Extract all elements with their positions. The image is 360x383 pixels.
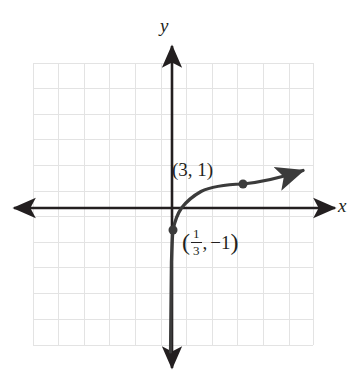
- label-close-paren: ): [230, 230, 238, 254]
- point-marker-3-1: [239, 180, 248, 189]
- fraction-denominator: 3: [191, 244, 202, 258]
- point-label-3-1: (3, 1): [172, 160, 213, 179]
- fraction-numerator: 1: [191, 227, 202, 241]
- graph-figure: y x (3, 1) ( 1 3 , −1 ): [0, 0, 360, 383]
- label-comma: ,: [203, 233, 208, 252]
- fraction-one-third: 1 3: [191, 227, 202, 257]
- coordinate-plane-svg: [0, 0, 360, 383]
- point-label-one-third-neg1: ( 1 3 , −1 ): [182, 227, 238, 257]
- label-open-paren: (: [182, 230, 190, 254]
- axis-lines: [14, 46, 335, 368]
- x-axis-label: x: [338, 196, 346, 215]
- y-axis-label: y: [160, 16, 168, 35]
- label-y-value: −1: [210, 233, 230, 252]
- log-curve: [171, 171, 304, 353]
- point-marker-one-third-neg1: [169, 226, 178, 235]
